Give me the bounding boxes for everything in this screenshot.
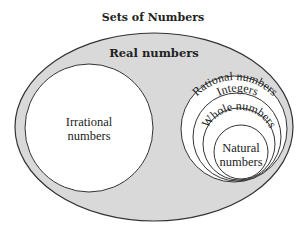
natural-label-line1: Natural [222, 141, 260, 155]
real-numbers-label: Real numbers [109, 46, 198, 60]
irrational-label-line1: Irrational [66, 115, 113, 129]
irrational-label-line2: numbers [67, 129, 110, 143]
natural-label-line2: numbers [219, 155, 262, 169]
diagram-title: Sets of Numbers [102, 11, 204, 24]
sets-of-numbers-diagram: Sets of Numbers Real numbers Irrational … [0, 0, 306, 233]
